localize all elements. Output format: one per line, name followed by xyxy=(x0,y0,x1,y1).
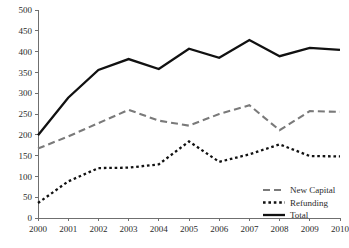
y-axis-tick-group: 050100150200250300350400450500 xyxy=(19,5,39,223)
x-axis-tick-label: 2002 xyxy=(89,224,107,234)
x-axis-tick-label: 2001 xyxy=(59,224,77,234)
x-axis-tick-label: 2005 xyxy=(180,224,199,234)
line-chart: 050100150200250300350400450500 200020012… xyxy=(0,0,349,248)
y-axis-tick-label: 0 xyxy=(28,213,33,223)
x-axis-tick-label: 2007 xyxy=(240,224,259,234)
x-axis-tick-label: 2004 xyxy=(150,224,169,234)
y-axis-tick-label: 450 xyxy=(19,26,33,36)
chart-container: 050100150200250300350400450500 200020012… xyxy=(0,0,349,248)
y-axis-tick-label: 500 xyxy=(19,5,33,15)
legend-label-refunding: Refunding xyxy=(290,198,328,208)
y-axis-tick-label: 250 xyxy=(19,109,33,119)
legend-label-total: Total xyxy=(290,210,309,220)
y-axis-tick-label: 50 xyxy=(23,192,33,202)
x-axis-tick-label: 2010 xyxy=(331,224,349,234)
x-axis-tick-label: 2000 xyxy=(29,224,48,234)
x-axis-tick-label: 2009 xyxy=(301,224,320,234)
y-axis-tick-label: 350 xyxy=(19,68,33,78)
y-axis-tick-label: 300 xyxy=(19,88,33,98)
y-axis-tick-label: 200 xyxy=(19,130,33,140)
y-axis-tick-label: 400 xyxy=(19,47,33,57)
chart-legend: New CapitalRefundingTotal xyxy=(263,185,336,220)
x-axis-tick-label: 2003 xyxy=(120,224,139,234)
series-group xyxy=(38,40,340,203)
y-axis-tick-label: 100 xyxy=(19,172,33,182)
x-axis-tick-label: 2008 xyxy=(271,224,290,234)
x-axis-tick-label: 2006 xyxy=(210,224,229,234)
legend-label-new-capital: New Capital xyxy=(290,185,336,195)
y-axis-tick-label: 150 xyxy=(19,151,33,161)
